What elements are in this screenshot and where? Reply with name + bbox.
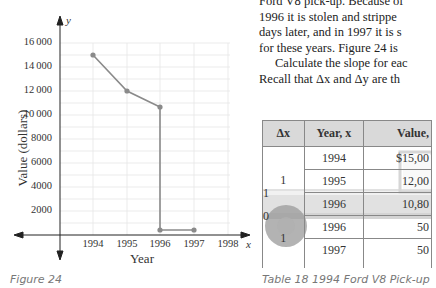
value-cell: 12,00 — [364, 170, 432, 193]
text-line: days later, and in 1997 it is s — [259, 25, 436, 41]
year-cell: 1997 — [304, 239, 364, 262]
value-cell: 50 — [364, 239, 432, 262]
x-axis-letter: x — [246, 238, 251, 250]
delta-x-cell: 1 — [263, 182, 305, 205]
text-line: 1996 it is stolen and strippe — [259, 10, 436, 26]
table-footer-cell — [304, 261, 364, 268]
header-value: Value, — [364, 121, 432, 147]
header-delta-x: Δx — [263, 121, 305, 147]
value-series — [90, 52, 196, 232]
text-line: for these years. Figure 24 is — [259, 41, 436, 57]
text-line: Ford V8 pick-up. Because of — [259, 0, 436, 10]
table-18: Δx Year, x Value, 1 1994 $15,00 1995 12,… — [262, 120, 432, 268]
y-tick-14000: 14 000 — [12, 60, 52, 71]
x-axis-title: Year — [130, 251, 154, 267]
y-tick-16000: 16 000 — [12, 36, 52, 47]
table-header-row: Δx Year, x Value, — [263, 121, 432, 147]
table-caption: Table 18 1994 Ford V8 Pick-up — [262, 273, 430, 286]
table-footer-cell — [364, 261, 432, 268]
text-line: Recall that Δx and Δy are th — [259, 72, 436, 88]
x-tick-1997: 1997 — [179, 238, 209, 249]
table-row: 1 1994 $15,00 — [263, 147, 432, 170]
year-cell: 1996 — [304, 216, 364, 239]
value-table: Δx Year, x Value, 1 1994 $15,00 1995 12,… — [262, 120, 432, 268]
value-cell: $15,00 — [364, 147, 432, 170]
text-line: Calculate the slope for eac — [259, 56, 436, 72]
value-cell: 50 — [364, 216, 432, 239]
x-tick-1996: 1996 — [145, 238, 175, 249]
delta-x-cell: 1 — [263, 228, 305, 251]
table-row: 1 1997 50 — [263, 239, 432, 262]
table-footer-row — [263, 261, 432, 268]
figure-24-chart: y x 16 000 14 000 12 000 10 000 8000 600… — [0, 0, 250, 270]
year-cell: 1995 — [304, 170, 364, 193]
body-text: Ford V8 pick-up. Because of 1996 it is s… — [259, 0, 436, 87]
header-year: Year, x — [304, 121, 364, 147]
grid — [60, 43, 230, 235]
delta-x-cell: 0 — [263, 205, 305, 228]
y-tick-2000: 2000 — [12, 204, 52, 215]
year-cell: 1996 — [304, 193, 364, 216]
year-cell: 1994 — [304, 147, 364, 170]
y-axis-title: Value (dollars) — [15, 93, 31, 203]
y-axis-letter: y — [66, 14, 71, 26]
x-tick-1998: 1998 — [213, 238, 243, 249]
x-tick-1994: 1994 — [78, 238, 108, 249]
x-tick-1995: 1995 — [112, 238, 142, 249]
figure-caption: Figure 24 — [10, 273, 62, 286]
value-cell: 10,80 — [364, 193, 432, 216]
table-footer-cell — [263, 261, 305, 268]
